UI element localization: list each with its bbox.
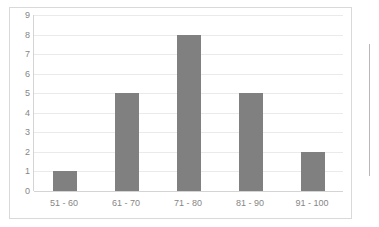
x-axis: 51 - 6061 - 7071 - 8081 - 9091 - 100	[33, 196, 343, 212]
chart-frame: 0123456789 51 - 6061 - 7071 - 8081 - 909…	[9, 7, 352, 219]
x-axis-tick-label: 81 - 90	[236, 196, 264, 210]
y-axis-tick-label: 3	[14, 128, 30, 137]
y-axis-tick-label: 8	[14, 30, 30, 39]
panel-edge-divider	[369, 44, 370, 176]
bar	[301, 152, 326, 191]
x-axis-tick-label: 51 - 60	[50, 196, 78, 210]
plot-area	[33, 15, 343, 191]
axis-baseline	[34, 191, 343, 192]
x-axis-tick-label: 71 - 80	[174, 196, 202, 210]
bar	[53, 171, 78, 191]
y-axis-tick-label: 0	[14, 187, 30, 196]
bar	[115, 93, 140, 191]
bar	[177, 35, 202, 191]
screenshot-root: 0123456789 51 - 6061 - 7071 - 8081 - 909…	[0, 0, 379, 227]
x-axis-tick-label: 61 - 70	[112, 196, 140, 210]
chart-plot-wrapper: 0123456789 51 - 6061 - 7071 - 8081 - 909…	[10, 8, 351, 218]
x-axis-tick-label: 91 - 100	[295, 196, 328, 210]
y-axis-tick-label: 7	[14, 50, 30, 59]
y-axis-tick-label: 4	[14, 108, 30, 117]
bar-series	[34, 15, 343, 191]
y-axis-tick-label: 1	[14, 167, 30, 176]
y-axis-tick-label: 9	[14, 11, 30, 20]
y-axis-tick-label: 6	[14, 69, 30, 78]
bar	[239, 93, 264, 191]
y-axis-tick-label: 2	[14, 147, 30, 156]
y-axis-tick-label: 5	[14, 89, 30, 98]
y-axis: 0123456789	[14, 15, 30, 191]
